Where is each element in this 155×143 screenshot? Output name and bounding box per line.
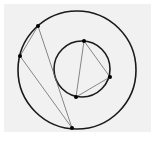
- dotted-background: [4, 4, 151, 132]
- concentric-circles-diagram: [0, 0, 155, 143]
